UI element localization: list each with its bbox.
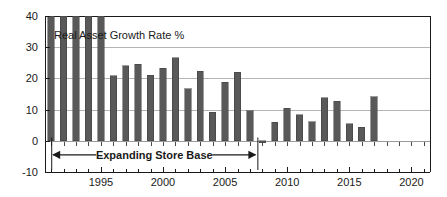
bar-2011 [296,115,302,141]
bar-2003 [197,71,203,141]
bar-2010 [284,108,290,141]
x-tick-label-2015: 2015 [337,176,361,188]
bar-1999 [147,75,153,141]
y-tick-label-0: 0 [32,135,38,147]
bar-2014 [334,101,340,140]
bar-2015 [346,124,352,141]
y-tick-label--10: -10 [22,166,38,178]
y-tick-label-30: 30 [26,41,38,53]
series-label: Real Asset Growth Rate % [54,29,184,41]
bar-2009 [272,122,278,141]
bar-2012 [309,122,315,141]
y-tick-label-10: 10 [26,104,38,116]
x-tick-label-2000: 2000 [151,176,175,188]
bar-2005 [222,82,228,141]
bar-2017 [371,97,377,141]
bar-2002 [185,89,191,141]
bar-2016 [358,127,364,141]
bar-1998 [135,64,141,141]
bar-1997 [123,66,129,141]
chart-figure: 199520002005201020152020 403020100-10 Re… [0,0,447,197]
real-asset-growth-rate-bar-chart: 199520002005201020152020 403020100-10 Re… [0,0,447,197]
bar-2006 [234,72,240,141]
bar-2004 [209,112,215,141]
bar-2007 [247,111,253,141]
y-tick-label-40: 40 [26,10,38,22]
bar-2000 [160,68,166,141]
x-tick-label-2010: 2010 [275,176,299,188]
annotation-label: Expanding Store Base [96,149,213,161]
bar-2001 [172,58,178,141]
bar-1996 [110,76,116,141]
bar-2013 [321,98,327,141]
x-tick-label-2020: 2020 [399,176,423,188]
y-tick-label-20: 20 [26,72,38,84]
x-tick-label-2005: 2005 [213,176,237,188]
x-tick-label-1995: 1995 [89,176,113,188]
